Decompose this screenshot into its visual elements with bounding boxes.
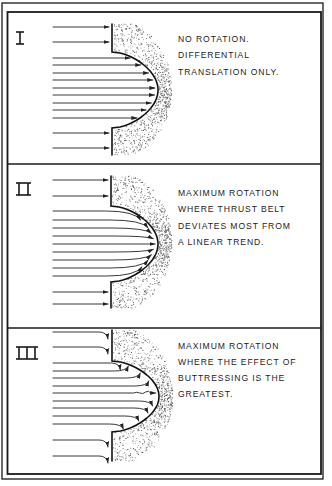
arrow-5 xyxy=(53,228,151,233)
arrow-2 xyxy=(53,347,108,354)
arrow-7 xyxy=(53,391,156,393)
caption-line: MAXIMUM ROTATION xyxy=(178,188,279,198)
displacement-arrows xyxy=(53,180,155,304)
panel-iii: MAXIMUM ROTATIONWHERE THE EFFECT OFBUTTR… xyxy=(16,330,296,463)
arrow-4 xyxy=(53,220,148,228)
arrow-3 xyxy=(53,211,141,220)
arrow-11 xyxy=(53,424,124,429)
arrow-6 xyxy=(53,236,153,239)
thrust-belt-stipple xyxy=(112,176,172,309)
panel-caption: MAXIMUM ROTATIONWHERE THRUST BELTDEVIATE… xyxy=(178,188,291,247)
caption-line: WHERE THE EFFECT OF xyxy=(178,357,296,367)
caption-line: DEVIATES MOST FROM xyxy=(178,221,291,231)
panels: NO ROTATION.DIFFERENTIALTRANSLATION ONLY… xyxy=(16,24,296,463)
arrow-10 xyxy=(53,416,139,421)
caption-line: A LINEAR TREND. xyxy=(178,237,264,247)
arrow-4 xyxy=(53,366,128,371)
caption-line: WHERE THRUST BELT xyxy=(178,204,285,214)
caption-line: TRANSLATION ONLY. xyxy=(178,67,279,77)
panel-caption: NO ROTATION.DIFFERENTIALTRANSLATION ONLY… xyxy=(178,34,279,77)
displacement-arrows xyxy=(53,332,156,463)
arrow-8 xyxy=(53,249,153,252)
caption-line: NO ROTATION. xyxy=(178,34,250,44)
arrow-5 xyxy=(53,373,140,378)
roman-numeral-iii xyxy=(16,347,38,359)
arrow-8 xyxy=(53,401,153,406)
roman-numeral-ii xyxy=(16,183,31,195)
arrow-1 xyxy=(53,332,108,339)
roman-numeral-i xyxy=(16,32,24,44)
arrow-10 xyxy=(53,260,148,268)
caption-line: BUTTRESSING IS THE xyxy=(178,373,285,383)
panel-i: NO ROTATION.DIFFERENTIALTRANSLATION ONLY… xyxy=(16,24,279,155)
arrow-6 xyxy=(53,381,149,386)
tectonic-rotation-diagram: NO ROTATION.DIFFERENTIALTRANSLATION ONLY… xyxy=(0,0,332,486)
arrow-3 xyxy=(53,363,120,370)
panel-caption: MAXIMUM ROTATIONWHERE THE EFFECT OFBUTTR… xyxy=(178,341,296,399)
arrow-13 xyxy=(53,456,108,463)
arrow-9 xyxy=(53,408,148,413)
caption-line: MAXIMUM ROTATION xyxy=(178,341,279,351)
thrust-belt-stipple xyxy=(113,330,173,462)
caption-line: DIFFERENTIAL xyxy=(178,50,250,60)
panel-ii: MAXIMUM ROTATIONWHERE THRUST BELTDEVIATE… xyxy=(16,176,291,309)
caption-line: GREATEST. xyxy=(178,389,233,399)
arrow-12 xyxy=(53,440,108,447)
arrow-9 xyxy=(53,255,151,260)
thrust-belt-stipple xyxy=(113,24,172,155)
